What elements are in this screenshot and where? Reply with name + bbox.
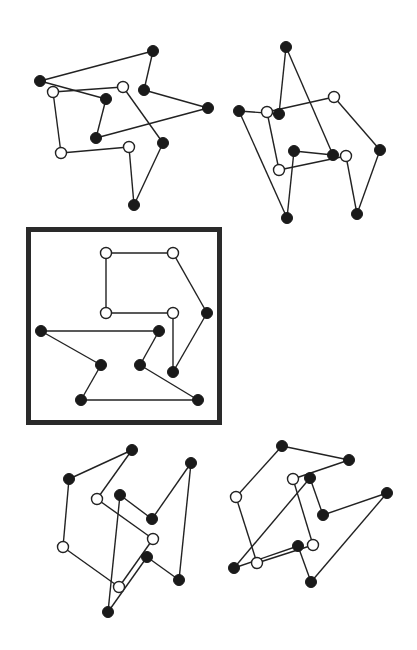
filled-node bbox=[328, 150, 339, 161]
filled-node bbox=[76, 395, 87, 406]
graph-edge bbox=[53, 92, 61, 153]
filled-node bbox=[306, 577, 317, 588]
graph-edge bbox=[173, 253, 207, 313]
filled-node bbox=[101, 94, 112, 105]
filled-node bbox=[91, 133, 102, 144]
filled-node bbox=[186, 458, 197, 469]
graph-edge bbox=[346, 156, 357, 214]
graph-panel-bottom-right bbox=[229, 441, 393, 588]
graph-edge bbox=[96, 99, 106, 138]
graph-edge bbox=[96, 108, 208, 138]
open-node bbox=[118, 82, 129, 93]
filled-node bbox=[203, 103, 214, 114]
filled-node bbox=[202, 308, 213, 319]
graph-edge bbox=[63, 479, 69, 547]
filled-node bbox=[274, 109, 285, 120]
open-node bbox=[168, 248, 179, 259]
filled-node bbox=[139, 85, 150, 96]
filled-node bbox=[382, 488, 393, 499]
filled-node bbox=[103, 607, 114, 618]
graph-panel-top-left bbox=[35, 46, 214, 211]
graph-edge bbox=[69, 450, 132, 479]
graph-edge bbox=[173, 313, 207, 372]
open-node bbox=[101, 308, 112, 319]
open-node bbox=[101, 248, 112, 259]
open-node bbox=[124, 142, 135, 153]
filled-node bbox=[147, 514, 158, 525]
graph-edge bbox=[257, 545, 313, 563]
open-node bbox=[56, 148, 67, 159]
filled-node bbox=[281, 42, 292, 53]
filled-node bbox=[129, 200, 140, 211]
filled-node bbox=[282, 213, 293, 224]
highlight-frame bbox=[29, 230, 220, 423]
open-node bbox=[252, 558, 263, 569]
graph-edge bbox=[334, 97, 380, 150]
open-node bbox=[329, 92, 340, 103]
filled-node bbox=[344, 455, 355, 466]
graph-edge bbox=[41, 331, 101, 365]
filled-node bbox=[229, 563, 240, 574]
graph-edge bbox=[144, 51, 153, 90]
filled-node bbox=[174, 575, 185, 586]
graph-edge bbox=[144, 90, 208, 108]
graph-edge bbox=[357, 150, 380, 214]
filled-node bbox=[64, 474, 75, 485]
graph-panel-bottom-left bbox=[58, 445, 197, 618]
filled-node bbox=[96, 360, 107, 371]
graph-edge bbox=[286, 47, 333, 155]
graph-edge bbox=[119, 539, 153, 587]
graph-edge bbox=[279, 47, 286, 114]
filled-node bbox=[158, 138, 169, 149]
filled-node bbox=[234, 106, 245, 117]
graph-edge bbox=[179, 463, 191, 580]
filled-node bbox=[375, 145, 386, 156]
filled-node bbox=[148, 46, 159, 57]
filled-node bbox=[277, 441, 288, 452]
open-node bbox=[274, 165, 285, 176]
graph-panels bbox=[35, 42, 393, 618]
graph-edge bbox=[61, 147, 129, 153]
filled-node bbox=[115, 490, 126, 501]
filled-node bbox=[135, 360, 146, 371]
graph-edge bbox=[293, 460, 349, 479]
graph-edge bbox=[282, 446, 349, 460]
open-node bbox=[48, 87, 59, 98]
filled-node bbox=[193, 395, 204, 406]
open-node bbox=[58, 542, 69, 553]
filled-node bbox=[352, 209, 363, 220]
open-node bbox=[288, 474, 299, 485]
graph-edge bbox=[97, 499, 153, 539]
open-node bbox=[341, 151, 352, 162]
graph-edge bbox=[152, 463, 191, 519]
filled-node bbox=[168, 367, 179, 378]
filled-node bbox=[293, 541, 304, 552]
graph-panel-top-right bbox=[234, 42, 386, 224]
graph-edge bbox=[129, 147, 134, 205]
open-node bbox=[168, 308, 179, 319]
filled-node bbox=[36, 326, 47, 337]
open-node bbox=[308, 540, 319, 551]
graph-edge bbox=[81, 365, 101, 400]
filled-node bbox=[305, 473, 316, 484]
graph-edge bbox=[108, 495, 120, 612]
graph-edge bbox=[236, 446, 282, 497]
graph-edge bbox=[134, 143, 163, 205]
filled-node bbox=[289, 146, 300, 157]
open-node bbox=[262, 107, 273, 118]
filled-node bbox=[318, 510, 329, 521]
open-node bbox=[92, 494, 103, 505]
filled-node bbox=[127, 445, 138, 456]
filled-node bbox=[142, 552, 153, 563]
open-node bbox=[114, 582, 125, 593]
graph-edge bbox=[287, 151, 294, 218]
open-node bbox=[231, 492, 242, 503]
filled-node bbox=[35, 76, 46, 87]
open-node bbox=[148, 534, 159, 545]
filled-node bbox=[154, 326, 165, 337]
graph-edge bbox=[267, 112, 279, 170]
graph-edge bbox=[293, 479, 313, 545]
graph-figure bbox=[0, 0, 417, 650]
graph-edge bbox=[40, 51, 153, 81]
graph-panel-middle-boxed bbox=[36, 248, 213, 406]
